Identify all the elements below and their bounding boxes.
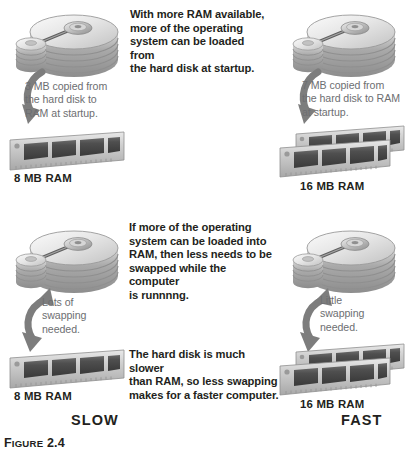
ram-label-bottom-right: 16 MB RAM xyxy=(300,398,364,410)
verdict-left: SLOW xyxy=(71,412,119,428)
spindle-hub xyxy=(64,238,92,251)
callout-top-right: 7 MB copied from the hard disk to RAM at… xyxy=(302,79,414,119)
callout-bottom-left: Lots of swapping needed. xyxy=(42,296,122,336)
actuator-stack xyxy=(16,38,46,72)
ram-label-top-right: 16 MB RAM xyxy=(300,180,364,192)
explanation-top-center: With more RAM available, more of the ope… xyxy=(130,8,270,76)
figure-caption: FIGURE 2.4 xyxy=(4,436,65,450)
figure-ram-swapping: 3 MB copied from the hard disk to RAM at… xyxy=(0,0,414,455)
ram-modules-bottom-right xyxy=(278,340,410,402)
explanation-middle-center: If more of the operating system can be l… xyxy=(129,221,277,303)
actuator-stack xyxy=(293,38,323,72)
spindle-hub xyxy=(341,238,369,251)
ram-module-bottom-left xyxy=(8,344,130,394)
ram-modules-top-right xyxy=(278,122,410,184)
actuator-stack xyxy=(16,254,46,288)
simm xyxy=(10,132,124,170)
caption-number: 2.4 xyxy=(47,436,65,450)
callout-bottom-right: Little swapping needed. xyxy=(320,294,400,334)
ram-label-top-left: 8 MB RAM xyxy=(14,172,72,184)
verdict-right: FAST xyxy=(341,412,382,428)
caption-smallcaps: IGURE xyxy=(12,438,43,449)
caption-prefix: F xyxy=(4,436,12,450)
ram-label-bottom-left: 8 MB RAM xyxy=(14,390,72,402)
explanation-lower-center: The hard disk is much slower than RAM, s… xyxy=(129,348,279,402)
spindle-hub xyxy=(341,22,369,35)
actuator-stack xyxy=(293,254,323,288)
simm xyxy=(10,350,124,388)
callout-top-left: 3 MB copied from the hard disk to RAM at… xyxy=(25,80,129,120)
ram-module-top-left xyxy=(8,126,130,176)
spindle-hub xyxy=(64,22,92,35)
